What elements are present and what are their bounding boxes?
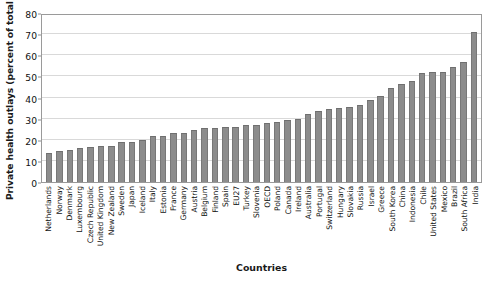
bar (357, 105, 363, 182)
x-axis-label-slot: Belgium (199, 184, 209, 260)
bar-slot (168, 15, 178, 182)
y-axis-tick-80: 80 (25, 9, 37, 20)
x-axis-label: Mexico (439, 186, 448, 212)
x-axis-label: Estonia (158, 186, 167, 214)
bar (67, 150, 73, 182)
bar-slot (324, 15, 334, 182)
bar (232, 127, 238, 182)
bar-series (42, 15, 481, 182)
x-axis-label: Ireland (293, 186, 302, 212)
x-axis-label-slot: Czech Republic (85, 184, 95, 260)
x-axis-label: Iceland (137, 186, 146, 213)
bar (253, 125, 259, 182)
x-axis-label-slot: OECD (262, 184, 272, 260)
bar-slot (355, 15, 365, 182)
bar (346, 107, 352, 182)
bar (388, 88, 394, 182)
bar-slot (313, 15, 323, 182)
bar (264, 123, 270, 182)
x-axis-label: United States (429, 186, 438, 237)
x-axis-label: Spain (221, 186, 230, 207)
bar (336, 108, 342, 182)
bar (118, 142, 124, 182)
x-axis-label: Greece (377, 186, 386, 213)
y-axis-tick-20: 20 (25, 135, 37, 146)
x-axis-label: EU27 (231, 186, 240, 206)
bar (284, 120, 290, 182)
bar-slot (282, 15, 292, 182)
bar-slot (334, 15, 344, 182)
bar-slot (469, 15, 479, 182)
bar (367, 100, 373, 182)
x-axis-label-slot: Germany (178, 184, 188, 260)
x-axis-label: India (470, 186, 479, 204)
bar (87, 147, 93, 182)
bar (108, 146, 114, 182)
bar-slot (438, 15, 448, 182)
x-axis-label-slot: Italy (147, 184, 157, 260)
bar-slot (179, 15, 189, 182)
x-axis-label-slot: Finland (210, 184, 220, 260)
bar-slot (189, 15, 199, 182)
x-axis-label: South Korea (387, 186, 396, 231)
x-axis-label-slot: Netherlands (43, 184, 53, 260)
bar (326, 109, 332, 182)
x-axis-label-slot: Canada (282, 184, 292, 260)
x-axis-label-slot: Chile (418, 184, 428, 260)
bar (150, 136, 156, 182)
bar (77, 148, 83, 182)
x-axis-title: Countries (41, 262, 482, 273)
x-axis-label: Finland (210, 186, 219, 213)
bar-slot (210, 15, 220, 182)
x-axis-label: Luxembourg (75, 186, 84, 233)
bar (212, 128, 218, 182)
bar (191, 130, 197, 182)
bar-slot (417, 15, 427, 182)
x-axis-label: Italy (148, 186, 157, 202)
bar-slot (137, 15, 147, 182)
y-axis-tick-10: 10 (25, 156, 37, 167)
x-axis-label-slot: South Africa (459, 184, 469, 260)
bar (450, 67, 456, 182)
bar-slot (386, 15, 396, 182)
x-axis-label: Poland (273, 186, 282, 211)
bar-slot (148, 15, 158, 182)
bar-slot (117, 15, 127, 182)
x-axis-label: Norway (54, 186, 63, 215)
x-axis-label-slot: Switzerland (324, 184, 334, 260)
x-axis-label: Sweden (117, 186, 126, 216)
x-axis-label-slot: Israel (366, 184, 376, 260)
x-axis-label-slot: India (470, 184, 480, 260)
bar-slot (127, 15, 137, 182)
x-axis-label: Russia (356, 186, 365, 210)
x-axis-label-slot: Spain (220, 184, 230, 260)
x-axis-label-slot: EU27 (230, 184, 240, 260)
bar-slot (272, 15, 282, 182)
bar-slot (96, 15, 106, 182)
x-axis-label-slot: Australia (303, 184, 313, 260)
bar-slot (199, 15, 209, 182)
x-axis-label-slot: Luxembourg (74, 184, 84, 260)
chart-figure: Private health outlays (percent of total… (0, 0, 492, 298)
x-axis-label: Australia (304, 186, 313, 219)
bar-slot (344, 15, 354, 182)
bar-slot (241, 15, 251, 182)
bar (429, 72, 435, 182)
x-axis-label-slot: Portugal (314, 184, 324, 260)
bar-slot (85, 15, 95, 182)
y-axis-tick-50: 50 (25, 72, 37, 83)
bar-slot (448, 15, 458, 182)
bar-slot (376, 15, 386, 182)
x-axis-label-slot: Brazil (449, 184, 459, 260)
bar-slot (303, 15, 313, 182)
y-axis-tick-labels: 01020304050607080 (18, 8, 39, 184)
x-axis-tick-labels: NetherlandsNorwayDenmarkLuxembourgCzech … (41, 184, 482, 260)
x-axis-label: Netherlands (44, 186, 53, 232)
bar (129, 142, 135, 182)
bar (419, 73, 425, 182)
x-axis-label-slot: Russia (355, 184, 365, 260)
bar (409, 81, 415, 182)
x-axis-label: Germany (179, 186, 188, 221)
bar-slot (75, 15, 85, 182)
x-axis-label-slot: United Kingdom (95, 184, 105, 260)
